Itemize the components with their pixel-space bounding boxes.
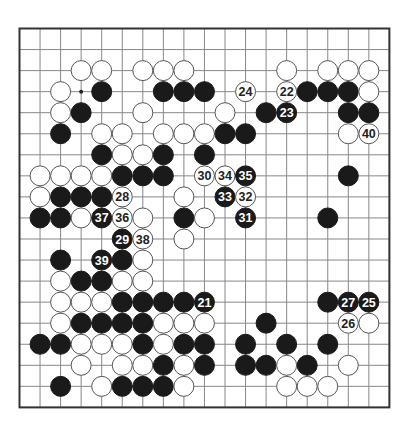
black-stone <box>153 292 173 312</box>
black-stone <box>133 376 153 396</box>
white-stone <box>133 271 153 291</box>
black-stone: 27 <box>338 292 358 312</box>
black-stone: 33 <box>215 187 235 207</box>
white-stone <box>174 124 194 144</box>
white-stone <box>112 124 132 144</box>
black-stone <box>112 376 132 396</box>
white-stone <box>112 355 132 375</box>
white-stone <box>174 229 194 249</box>
black-stone <box>297 355 317 375</box>
move-number-label: 33 <box>218 190 232 204</box>
black-stone <box>51 250 71 270</box>
white-stone: 28 <box>112 187 132 207</box>
black-stone <box>338 166 358 186</box>
white-stone <box>174 61 194 81</box>
black-stone <box>51 376 71 396</box>
black-stone <box>194 82 214 102</box>
white-stone <box>71 208 91 228</box>
white-stone <box>51 313 71 333</box>
black-stone <box>174 292 194 312</box>
black-stone <box>297 82 317 102</box>
star-point <box>79 90 83 94</box>
white-stone <box>92 124 112 144</box>
white-stone <box>71 166 91 186</box>
black-stone <box>112 292 132 312</box>
white-stone <box>133 208 153 228</box>
white-stone <box>194 313 214 333</box>
black-stone <box>133 334 153 354</box>
black-stone <box>92 271 112 291</box>
white-stone <box>318 376 338 396</box>
black-stone <box>194 145 214 165</box>
black-stone <box>153 82 173 102</box>
black-stone <box>71 187 91 207</box>
white-stone <box>194 208 214 228</box>
white-stone <box>359 61 379 81</box>
white-stone <box>215 103 235 123</box>
move-number-label: 38 <box>136 233 150 247</box>
white-stone <box>51 271 71 291</box>
black-stone <box>256 103 276 123</box>
white-stone: 26 <box>338 313 358 333</box>
white-stone <box>92 292 112 312</box>
black-stone <box>194 334 214 354</box>
white-stone: 34 <box>215 166 235 186</box>
move-number-label: 40 <box>362 127 376 141</box>
black-stone <box>92 313 112 333</box>
black-stone <box>194 355 214 375</box>
black-stone <box>92 187 112 207</box>
white-stone <box>30 187 50 207</box>
white-stone <box>112 271 132 291</box>
black-stone <box>30 334 50 354</box>
white-stone <box>133 145 153 165</box>
move-number-label: 26 <box>341 317 355 331</box>
move-number-label: 29 <box>115 233 129 247</box>
black-stone <box>236 334 256 354</box>
white-stone <box>112 334 132 354</box>
black-stone <box>51 124 71 144</box>
black-stone <box>318 292 338 312</box>
white-stone <box>112 145 132 165</box>
black-stone <box>318 82 338 102</box>
move-number-label: 37 <box>95 211 109 225</box>
white-stone <box>51 82 71 102</box>
white-stone <box>153 61 173 81</box>
white-stone: 40 <box>359 124 379 144</box>
white-stone <box>318 61 338 81</box>
black-stone: 31 <box>236 208 256 228</box>
move-number-label: 32 <box>239 190 253 204</box>
black-stone <box>318 334 338 354</box>
white-stone <box>174 313 194 333</box>
white-stone <box>71 355 91 375</box>
star-points <box>79 90 83 94</box>
black-stone: 37 <box>92 208 112 228</box>
black-stone <box>51 334 71 354</box>
white-stone <box>51 103 71 123</box>
black-stone <box>71 271 91 291</box>
black-stone: 35 <box>236 166 256 186</box>
move-number-label: 39 <box>95 254 109 268</box>
move-number-label: 23 <box>280 106 294 120</box>
move-number-label: 34 <box>218 169 232 183</box>
black-stone <box>236 124 256 144</box>
black-stone <box>71 313 91 333</box>
move-number-label: 22 <box>280 85 294 99</box>
black-stone <box>153 355 173 375</box>
move-number-label: 25 <box>362 296 376 310</box>
black-stone <box>338 103 358 123</box>
white-stone: 38 <box>133 229 153 249</box>
black-stone <box>153 145 173 165</box>
white-stone <box>71 61 91 81</box>
white-stone <box>338 355 358 375</box>
move-number-label: 35 <box>239 169 253 183</box>
white-stone <box>194 124 214 144</box>
white-stone <box>92 376 112 396</box>
black-stone <box>30 208 50 228</box>
move-number-label: 36 <box>115 211 129 225</box>
white-stone <box>71 334 91 354</box>
move-number-label: 24 <box>239 85 253 99</box>
black-stone: 23 <box>277 103 297 123</box>
white-stone <box>71 292 91 312</box>
black-stone <box>112 313 132 333</box>
black-stone <box>338 82 358 102</box>
